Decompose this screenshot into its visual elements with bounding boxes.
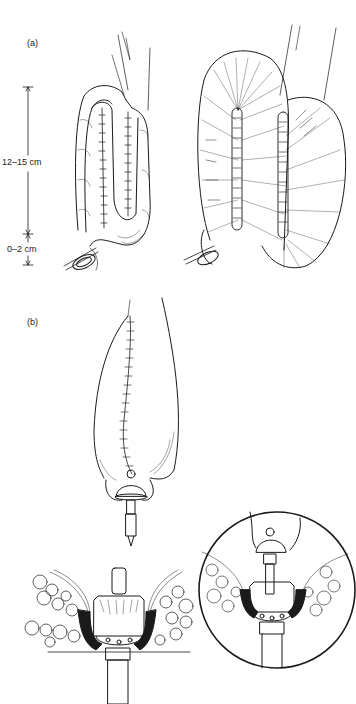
surgical-illustration bbox=[0, 0, 356, 704]
pouch-with-anvil bbox=[94, 298, 178, 546]
anastomosis-inset-circle bbox=[199, 512, 355, 668]
j-pouch-exterior bbox=[64, 32, 150, 273]
stapled-anastomosis bbox=[25, 568, 193, 704]
j-pouch-opened bbox=[184, 25, 346, 268]
measurement-bar bbox=[23, 87, 33, 265]
